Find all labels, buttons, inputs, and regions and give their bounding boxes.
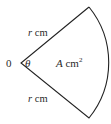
angle-label: θ — [25, 57, 31, 69]
area-label: A cm2 — [55, 56, 83, 69]
sector-diagram: 0 θ r cm r cm A cm2 — [0, 0, 111, 124]
upper-radius-label: r cm — [28, 27, 48, 38]
center-label: 0 — [6, 57, 12, 69]
lower-radius-label: r cm — [28, 93, 48, 104]
